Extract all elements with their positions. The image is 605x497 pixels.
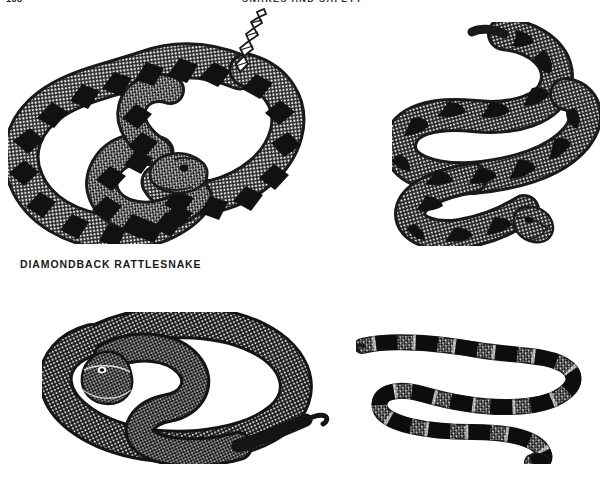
copperhead-snake-illustration [392,22,600,246]
figure-coral-snake: CORAL OR HARLEQUIN SNAKE [356,332,601,464]
figure-diamondback-rattlesnake: DIAMONDBACK RATTLESNAKE [8,8,308,244]
running-header: 138 SNAKES AND SAFETY [0,0,605,6]
figure-copperhead-snake: COPPERHEAD SNAKE [392,22,600,246]
caption-diamondback-rattlesnake: DIAMONDBACK RATTLESNAKE [20,258,202,270]
coral-snake-illustration [356,332,601,464]
water-moccasin-snake-illustration [42,312,332,464]
running-title: SNAKES AND SAFETY [0,0,605,4]
figure-water-moccasin-snake: WATER MOCCASIN OR COTTONMOUTH SNAKE [42,312,332,464]
diamondback-rattlesnake-illustration [8,8,308,244]
